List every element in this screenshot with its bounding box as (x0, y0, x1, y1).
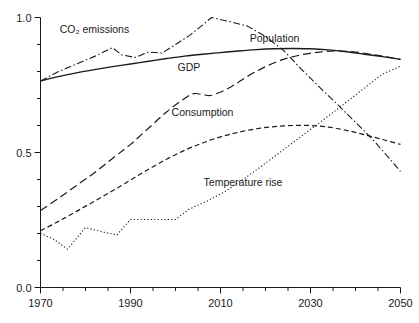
series-label-temperature-rise: Temperature rise (204, 176, 283, 188)
series-label-population: Population (250, 32, 300, 44)
x-tick-label: 2010 (208, 297, 232, 309)
tick-labels: 197019902010203020500.00.51.0 (16, 12, 413, 309)
y-tick-label: 0.5 (16, 147, 31, 159)
y-tick-label: 0.0 (16, 282, 31, 294)
y-tick-label: 1.0 (16, 12, 31, 24)
series-label-consumption: Consumption (172, 106, 234, 118)
x-tick-label: 1990 (118, 297, 142, 309)
x-tick-label: 2050 (388, 297, 412, 309)
series-labels: PopulationCO₂ emissionsGDPConsumptionTem… (60, 23, 300, 188)
x-tick-label: 2030 (298, 297, 322, 309)
series-line-population (41, 49, 401, 81)
line-chart: 197019902010203020500.00.51.0 Population… (0, 0, 419, 323)
tick-marks (35, 18, 401, 294)
series-line-temperature-rise (41, 66, 401, 249)
axes (41, 18, 401, 288)
series-line-co2-emissions (41, 18, 401, 172)
series-label-co2-emissions: CO₂ emissions (60, 23, 129, 35)
data-series (41, 18, 401, 250)
x-tick-label: 1970 (28, 297, 52, 309)
chart-container: 197019902010203020500.00.51.0 Population… (0, 0, 419, 323)
series-label-gdp: GDP (178, 61, 201, 73)
